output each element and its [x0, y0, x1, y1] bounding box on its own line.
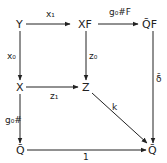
label-z1: z₁	[50, 92, 58, 101]
node-y: Y	[16, 19, 23, 30]
node-x: X	[16, 82, 24, 93]
arrow-z-q	[92, 93, 147, 143]
label-g0-sharp: g₀#	[5, 116, 22, 125]
node-q-bottom-right: Q̄	[148, 145, 157, 156]
label-k: k	[112, 103, 117, 112]
node-q-bottom-left: Q̄	[16, 145, 25, 156]
label-x0: x₀	[7, 52, 16, 61]
label-z0: z₀	[89, 52, 97, 61]
label-x1: x₁	[46, 10, 55, 19]
node-xf: XF	[78, 19, 92, 30]
label-one: 1	[83, 153, 89, 162]
node-qf: Q̄F	[142, 19, 157, 30]
label-g0-sharp-f: g₀#F	[109, 8, 131, 17]
label-delta-bar: δ̄	[156, 75, 162, 84]
node-z: Z	[82, 82, 90, 93]
